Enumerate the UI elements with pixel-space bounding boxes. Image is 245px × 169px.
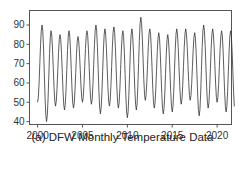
line-chart: 405060708090 20002005201020152020 <box>0 0 245 169</box>
y-axis: 405060708090 <box>13 19 29 127</box>
y-tick-label: 80 <box>13 39 25 50</box>
y-tick-label: 50 <box>13 97 25 108</box>
y-tick-label: 60 <box>13 77 25 88</box>
chart-caption: (a) DFW Monthly Temperature Data <box>0 131 245 143</box>
y-tick-label: 70 <box>13 58 25 69</box>
y-tick-label: 40 <box>13 116 25 127</box>
temperature-series-line <box>38 17 235 121</box>
y-tick-label: 90 <box>13 19 25 30</box>
